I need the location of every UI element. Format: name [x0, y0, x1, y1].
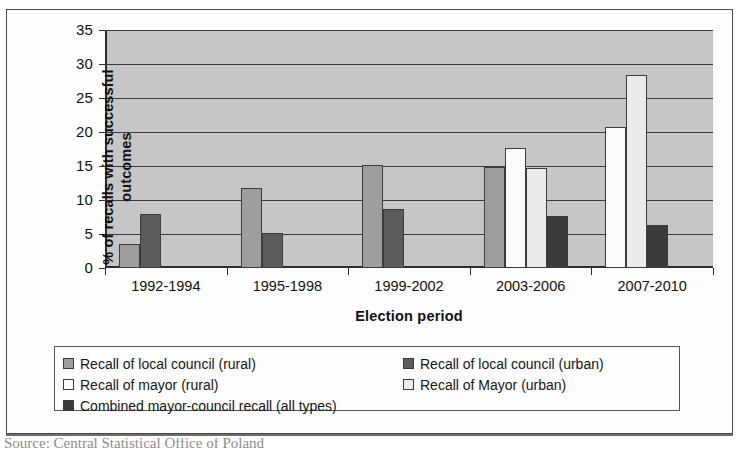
x-tick-label: 1995-1998 [227, 278, 347, 294]
legend-row: Combined mayor-council recall (all types… [63, 395, 671, 416]
bar [140, 214, 161, 268]
chart-plot-area: 05101520253035 1992-19941995-19981999-20… [105, 30, 713, 268]
legend-item: Recall of local council (urban) [403, 356, 604, 372]
legend-swatch-icon [63, 379, 74, 390]
bar [505, 148, 526, 268]
x-tick-label: 1999-2002 [349, 278, 469, 294]
x-tick-label: 2007-2010 [592, 278, 712, 294]
bar [605, 127, 626, 268]
x-tick-mark [348, 268, 349, 275]
bar-group [227, 30, 349, 268]
legend-row: Recall of local council (rural) Recall o… [63, 353, 671, 374]
x-tick-mark [227, 268, 228, 275]
y-tick-label: 30 [55, 56, 93, 71]
figure-root: 05101520253035 1992-19941995-19981999-20… [0, 0, 744, 452]
legend-swatch-icon [63, 358, 74, 369]
legend-swatch-icon [63, 400, 74, 411]
y-tick-label: 0 [55, 260, 93, 275]
bar [383, 209, 404, 268]
legend-label: Recall of Mayor (urban) [420, 377, 566, 393]
legend-item: Recall of mayor (rural) [63, 377, 403, 393]
bar [241, 188, 262, 268]
legend-item: Recall of local council (rural) [63, 356, 403, 372]
chart-legend: Recall of local council (rural) Recall o… [54, 346, 680, 411]
x-tick-mark [591, 268, 592, 275]
x-tick-mark [713, 268, 714, 275]
legend-swatch-icon [403, 358, 414, 369]
legend-label: Combined mayor-council recall (all types… [80, 398, 337, 414]
bar-group [348, 30, 470, 268]
bar [362, 165, 383, 268]
x-axis-title: Election period [105, 308, 713, 324]
source-divider [6, 434, 733, 436]
bar-group [470, 30, 592, 268]
bar [626, 75, 647, 268]
bar [526, 168, 547, 268]
legend-label: Recall of local council (urban) [420, 356, 604, 372]
legend-label: Recall of local council (rural) [80, 356, 256, 372]
legend-label: Recall of mayor (rural) [80, 377, 218, 393]
x-tick-label: 2003-2006 [471, 278, 591, 294]
x-tick-mark [470, 268, 471, 275]
y-tick-label: 5 [55, 226, 93, 241]
y-tick-label: 10 [55, 192, 93, 207]
bar [647, 225, 668, 268]
source-note-text: Source: Central Statistical Office of Po… [4, 438, 524, 452]
bar [484, 167, 505, 268]
y-tick-label: 25 [55, 90, 93, 105]
y-tick-label: 15 [55, 158, 93, 173]
y-tick-label: 20 [55, 124, 93, 139]
bar-group [591, 30, 713, 268]
legend-row: Recall of mayor (rural) Recall of Mayor … [63, 374, 671, 395]
source-note: Source: Central Statistical Office of Po… [4, 438, 524, 452]
legend-swatch-icon [403, 379, 414, 390]
y-tick-label: 35 [55, 22, 93, 37]
bar [547, 216, 568, 268]
legend-item: Recall of Mayor (urban) [403, 377, 566, 393]
y-axis-title: % of recalls with successful outcomes [99, 0, 153, 48]
legend-item: Combined mayor-council recall (all types… [63, 398, 403, 414]
bar [262, 233, 283, 268]
